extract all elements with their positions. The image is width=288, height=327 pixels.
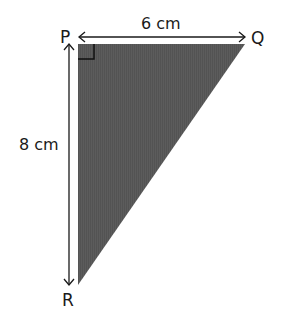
triangle-pqr: [78, 44, 245, 285]
height-dimension-arrow: [64, 44, 74, 285]
width-dimension-arrow: [79, 32, 245, 42]
left-dimension-label: 8 cm: [19, 135, 59, 154]
vertex-label-p: P: [60, 27, 70, 47]
vertex-label-r: R: [62, 290, 74, 310]
triangle-diagram: P Q R 6 cm 8 cm: [0, 0, 288, 327]
top-dimension-label: 6 cm: [141, 14, 181, 33]
vertex-label-q: Q: [251, 28, 264, 48]
